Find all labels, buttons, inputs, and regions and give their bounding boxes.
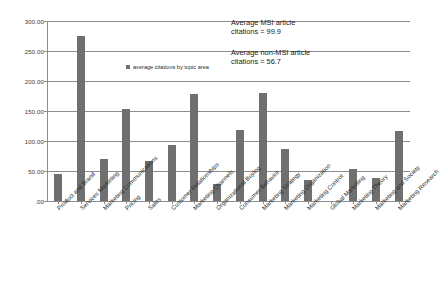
x-axis-tick-mark bbox=[331, 201, 332, 204]
annotation-msi-line1: Average MSI article bbox=[231, 18, 295, 27]
bar bbox=[190, 94, 198, 201]
bar bbox=[304, 180, 312, 201]
y-axis-tick-label: 250.00 bbox=[25, 48, 44, 55]
bar-series bbox=[47, 21, 410, 201]
annotation-nonmsi-line1: Average non-MSI article bbox=[231, 48, 310, 57]
bar-slot bbox=[183, 21, 206, 201]
x-axis-tick-mark bbox=[126, 201, 127, 204]
x-axis-tick-mark bbox=[399, 201, 400, 204]
bar bbox=[77, 36, 85, 201]
y-axis-tick-label: 200.00 bbox=[25, 78, 44, 85]
bar bbox=[168, 145, 176, 201]
annotation-nonmsi-line2: citations = 56.7 bbox=[231, 57, 310, 66]
x-axis-tick-mark bbox=[81, 201, 82, 204]
y-axis-tick-label: 100.00 bbox=[25, 138, 44, 145]
x-axis-tick-mark bbox=[217, 201, 218, 204]
bar bbox=[54, 174, 62, 201]
bar bbox=[100, 159, 108, 201]
chart-legend: average citations by topic area bbox=[126, 64, 209, 70]
bar bbox=[122, 109, 130, 201]
bar bbox=[236, 130, 244, 201]
x-axis-tick-mark bbox=[240, 201, 241, 204]
annotation-average-non-msi: Average non-MSI article citations = 56.7 bbox=[231, 48, 310, 67]
bar-slot bbox=[319, 21, 342, 201]
bar-slot bbox=[92, 21, 115, 201]
x-axis-tick-mark bbox=[104, 201, 105, 204]
x-axis-tick-mark bbox=[149, 201, 150, 204]
bar-slot bbox=[138, 21, 161, 201]
bar bbox=[281, 149, 289, 201]
bar-slot bbox=[115, 21, 138, 201]
legend-label: average citations by topic area bbox=[133, 64, 209, 70]
x-axis-tick-mark bbox=[172, 201, 173, 204]
x-axis-tick-mark bbox=[263, 201, 264, 204]
bar-slot bbox=[206, 21, 229, 201]
y-axis-tick-label: 50.00 bbox=[28, 168, 44, 175]
annotation-average-msi: Average MSI article citations = 99.9 bbox=[231, 18, 295, 37]
y-axis: .0050.00100.00150.00200.00250.00300.00 bbox=[0, 0, 44, 298]
bar bbox=[349, 169, 357, 201]
bar-slot bbox=[387, 21, 410, 201]
legend-swatch-icon bbox=[126, 65, 130, 69]
bar-slot bbox=[160, 21, 183, 201]
x-axis-line bbox=[47, 201, 411, 202]
bar bbox=[395, 131, 403, 201]
x-axis-tick-mark bbox=[308, 201, 309, 204]
x-axis-tick-mark bbox=[353, 201, 354, 204]
annotation-msi-line2: citations = 99.9 bbox=[231, 27, 295, 36]
bar bbox=[145, 161, 153, 201]
y-axis-tick-label: 300.00 bbox=[25, 18, 44, 25]
y-axis-tick-label: .00 bbox=[35, 198, 44, 205]
bar bbox=[372, 178, 380, 201]
y-axis-tick-label: 150.00 bbox=[25, 108, 44, 115]
bar-slot bbox=[342, 21, 365, 201]
bar-slot bbox=[365, 21, 388, 201]
bar bbox=[213, 184, 221, 201]
x-axis-tick-mark bbox=[194, 201, 195, 204]
x-axis-tick-mark bbox=[285, 201, 286, 204]
bar-slot bbox=[70, 21, 93, 201]
x-axis-tick-mark bbox=[58, 201, 59, 204]
bar-slot bbox=[47, 21, 70, 201]
x-axis-tick-mark bbox=[376, 201, 377, 204]
bar bbox=[259, 93, 267, 201]
